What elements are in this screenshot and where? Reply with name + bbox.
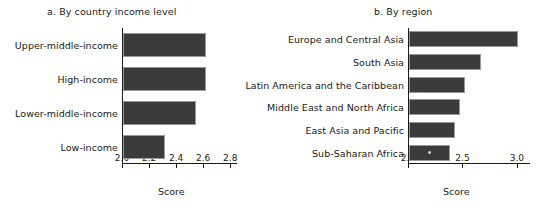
bar-high-income [123, 67, 206, 91]
figure: a. By country income level 2.02.22.42.62… [0, 0, 539, 211]
panel-b-category-label: South Asia [353, 57, 404, 68]
panel-b-category-label: Sub-Saharan Africa [312, 147, 404, 158]
panel-b-x-tick-label: 2.5 [455, 153, 469, 163]
panel-a-plot-area: 2.02.22.42.62.8 [122, 28, 237, 164]
panel-a-x-tick-label: 2.6 [196, 153, 210, 163]
panel-b-x-axis-label: Score [443, 186, 470, 197]
bar-europe-and-central-asia [409, 31, 518, 47]
panel-a-x-tick-label: 2.4 [169, 153, 183, 163]
panel-a-category-label: Lower-middle-income [15, 108, 118, 119]
panel-a-category-label: Low-income [61, 142, 118, 153]
panel-b-category-label: East Asia and Pacific [305, 125, 404, 136]
bar-marker-dot-icon [428, 151, 431, 154]
panel-a-title: a. By country income level [47, 6, 176, 17]
bar-east-asia-and-pacific [409, 122, 455, 138]
panel-b-category-label: Middle East and North Africa [267, 102, 404, 113]
panel-b-title: b. By region [374, 6, 432, 17]
bar-latin-america-and-the-caribbean [409, 77, 465, 93]
bar-low-income [123, 135, 165, 159]
panel-a-x-axis-label: Score [158, 186, 185, 197]
panel-b-category-label: Europe and Central Asia [288, 34, 404, 45]
panel-a-by-country-income-level: a. By country income level 2.02.22.42.62… [0, 0, 270, 211]
panel-b-x-tick-label: 3.0 [510, 153, 524, 163]
panel-b-plot-area: 2.02.53.0 [408, 28, 530, 164]
bar-upper-middle-income [123, 33, 206, 57]
bar-middle-east-and-north-africa [409, 99, 460, 115]
bar-south-asia [409, 54, 481, 70]
panel-a-category-label: Upper-middle-income [15, 40, 118, 51]
panel-a-x-tick-label: 2.8 [223, 153, 237, 163]
bar-lower-middle-income [123, 101, 196, 125]
panel-a-category-label: High-income [57, 74, 118, 85]
bar-sub-saharan-africa [409, 145, 450, 161]
panel-b-by-region: b. By region 2.02.53.0 Score Europe and … [270, 0, 539, 211]
panel-b-category-label: Latin America and the Caribbean [245, 79, 404, 90]
